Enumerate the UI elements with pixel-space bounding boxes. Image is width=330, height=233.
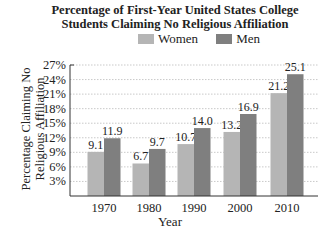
y-tick-label: 12% xyxy=(43,131,66,145)
x-tick-label: 2010 xyxy=(275,201,300,215)
bar-men-1980 xyxy=(149,149,166,196)
y-tick-label: 3% xyxy=(49,174,66,188)
bar-men-2010 xyxy=(287,74,304,196)
x-tick-label: 1980 xyxy=(137,201,162,215)
plot-area: 3%6%9%12%15%18%21%24%27%9.111.919706.79.… xyxy=(0,0,330,233)
bar-women-1980 xyxy=(133,163,150,196)
data-label: 16.9 xyxy=(238,100,259,114)
y-tick-label: 18% xyxy=(43,102,66,116)
y-tick-label: 6% xyxy=(49,160,66,174)
data-label: 6.7 xyxy=(133,149,148,163)
y-tick-label: 15% xyxy=(43,116,66,130)
data-label: 9.7 xyxy=(150,135,165,149)
data-label: 21.2 xyxy=(268,79,289,93)
bar-women-2000 xyxy=(224,132,241,196)
bar-men-2000 xyxy=(240,114,257,196)
x-axis-label: Year xyxy=(158,214,182,230)
data-label: 25.1 xyxy=(285,60,306,74)
bar-women-1970 xyxy=(88,152,105,196)
data-label: 10.7 xyxy=(175,130,196,144)
y-tick-label: 9% xyxy=(49,145,66,159)
bar-women-1990 xyxy=(178,144,195,196)
y-tick-label: 27% xyxy=(43,58,66,72)
data-label: 14.0 xyxy=(192,114,213,128)
data-label: 13.2 xyxy=(221,118,242,132)
x-tick-label: 1970 xyxy=(92,201,117,215)
x-tick-label: 1990 xyxy=(182,201,207,215)
bar-men-1970 xyxy=(104,138,121,196)
data-label: 11.9 xyxy=(102,124,123,138)
y-tick-label: 21% xyxy=(43,87,66,101)
bar-women-2010 xyxy=(271,93,288,196)
bar-men-1990 xyxy=(194,128,211,196)
x-tick-label: 2000 xyxy=(228,201,253,215)
y-tick-label: 24% xyxy=(43,73,66,87)
data-label: 9.1 xyxy=(88,138,103,152)
